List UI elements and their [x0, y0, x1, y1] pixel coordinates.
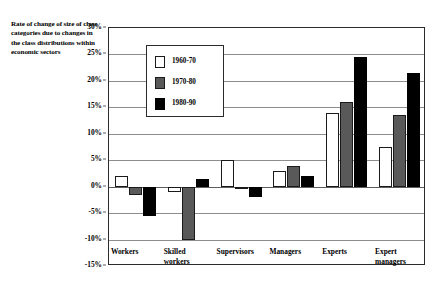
- legend-label: 1960-70: [172, 58, 196, 65]
- bar-expert-managers-1970-80: [393, 115, 406, 186]
- y-tick-mark: [103, 106, 106, 107]
- legend: 1960-701970-801980-90: [146, 45, 224, 117]
- bar-expert-managers-1980-90: [407, 73, 420, 187]
- bar-supervisors-1960-70: [221, 160, 234, 186]
- y-tick-mark: [103, 27, 106, 28]
- y-tick-mark: [103, 212, 106, 213]
- y-tick-mark: [103, 132, 106, 133]
- bar-skilled-workers-1960-70: [168, 187, 181, 192]
- y-tick-mark: [103, 159, 106, 160]
- y-tick-label: 15%: [87, 103, 102, 110]
- bar-supervisors-1970-80: [235, 187, 248, 190]
- y-tick-mark: [103, 265, 106, 266]
- legend-label: 1970-80: [172, 79, 196, 86]
- bar-managers-1960-70: [273, 171, 286, 187]
- bar-workers-1970-80: [129, 187, 142, 195]
- y-tick-label: 10%: [87, 129, 102, 136]
- bar-skilled-workers-1970-80: [182, 187, 195, 240]
- x-axis-label-expert-managers: Expert managers: [375, 247, 438, 266]
- chart-figure: Rate of change of size of class categori…: [0, 0, 445, 281]
- y-tick-label: -10%: [85, 235, 102, 242]
- y-tick-mark: [103, 79, 106, 80]
- legend-item: 1960-70: [155, 55, 196, 68]
- bar-group: [373, 28, 426, 264]
- bar-experts-1980-90: [354, 57, 367, 187]
- legend-item: 1980-90: [155, 97, 196, 110]
- y-tick-mark: [103, 53, 106, 54]
- y-tick-mark: [103, 238, 106, 239]
- bar-supervisors-1980-90: [249, 187, 262, 198]
- bar-experts-1960-70: [326, 113, 339, 187]
- y-tick-label: -5%: [88, 208, 102, 215]
- y-tick-label: 30%: [87, 23, 102, 30]
- bar-skilled-workers-1980-90: [196, 179, 209, 187]
- y-tick-label: -15%: [85, 261, 102, 268]
- y-tick-label: 20%: [87, 76, 102, 83]
- bar-workers-1980-90: [143, 187, 156, 216]
- legend-label: 1980-90: [172, 100, 196, 107]
- legend-item: 1970-80: [155, 76, 196, 89]
- bar-workers-1960-70: [115, 176, 128, 187]
- y-tick-label: 5%: [91, 156, 102, 163]
- bar-group: [268, 28, 321, 264]
- bar-managers-1970-80: [287, 166, 300, 187]
- legend-swatch-icon: [155, 77, 165, 89]
- y-tick-label: 0%: [91, 182, 102, 189]
- y-tick-mark: [103, 185, 106, 186]
- y-axis: 30%25%20%15%10%5%0%-5%-10%-15%: [76, 27, 106, 265]
- legend-swatch-icon: [155, 98, 165, 110]
- bar-group: [320, 28, 373, 264]
- bar-expert-managers-1960-70: [379, 147, 392, 187]
- legend-swatch-icon: [155, 56, 165, 68]
- y-tick-label: 25%: [87, 50, 102, 57]
- bar-managers-1980-90: [301, 176, 314, 187]
- bar-experts-1970-80: [340, 102, 353, 187]
